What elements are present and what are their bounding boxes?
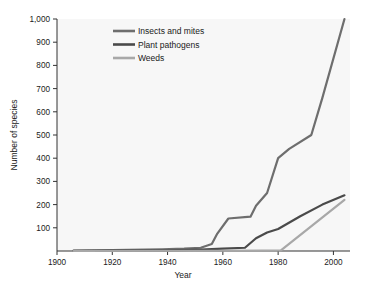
chart-figure: 1002003004005006007008009001,000 1900192… bbox=[0, 0, 366, 290]
legend-label: Plant pathogens bbox=[138, 40, 199, 50]
plot-background bbox=[57, 19, 350, 251]
y-axis-title: Number of species bbox=[9, 100, 19, 171]
y-tick-label: 800 bbox=[36, 61, 50, 70]
y-tick-label: 700 bbox=[36, 85, 50, 94]
x-axis-title: Year bbox=[174, 270, 191, 280]
legend-label: Insects and mites bbox=[138, 26, 204, 36]
y-tick-label: 100 bbox=[36, 224, 50, 233]
y-tick-label: 600 bbox=[36, 108, 50, 117]
y-tick-label: 200 bbox=[36, 201, 50, 210]
x-tick-label: 1940 bbox=[158, 258, 177, 267]
x-tick-label: 1980 bbox=[269, 258, 288, 267]
y-tick-label: 300 bbox=[36, 177, 50, 186]
x-tick-label: 1960 bbox=[214, 258, 233, 267]
x-axis-ticks: 190019201940196019802000 bbox=[48, 251, 343, 267]
line-chart: 1002003004005006007008009001,000 1900192… bbox=[0, 0, 366, 290]
y-tick-label: 900 bbox=[36, 38, 50, 47]
y-tick-label: 1,000 bbox=[30, 15, 51, 24]
x-tick-label: 1920 bbox=[103, 258, 122, 267]
x-tick-label: 2000 bbox=[324, 258, 343, 267]
y-axis-ticks: 1002003004005006007008009001,000 bbox=[30, 15, 58, 233]
legend-label: Weeds bbox=[138, 53, 164, 63]
y-tick-label: 400 bbox=[36, 154, 50, 163]
y-tick-label: 500 bbox=[36, 131, 50, 140]
x-tick-label: 1900 bbox=[48, 258, 67, 267]
